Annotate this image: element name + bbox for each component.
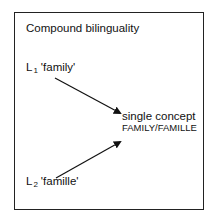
- l2-arrow: [56, 142, 120, 178]
- arrows: [0, 0, 215, 224]
- l1-arrow: [55, 78, 120, 113]
